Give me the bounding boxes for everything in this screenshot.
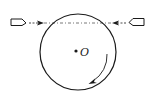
disk-circle xyxy=(40,14,116,90)
right-bullet xyxy=(112,19,144,26)
left-bullet-body xyxy=(11,19,26,26)
center-dot xyxy=(74,49,77,52)
rotation-arc xyxy=(93,54,107,81)
center-label: O xyxy=(80,46,89,59)
left-arrow-head-icon xyxy=(37,21,44,26)
diagram-canvas: O xyxy=(0,0,155,101)
right-arrow-head-icon xyxy=(112,21,119,26)
right-bullet-body xyxy=(129,19,144,26)
left-bullet xyxy=(11,19,44,26)
